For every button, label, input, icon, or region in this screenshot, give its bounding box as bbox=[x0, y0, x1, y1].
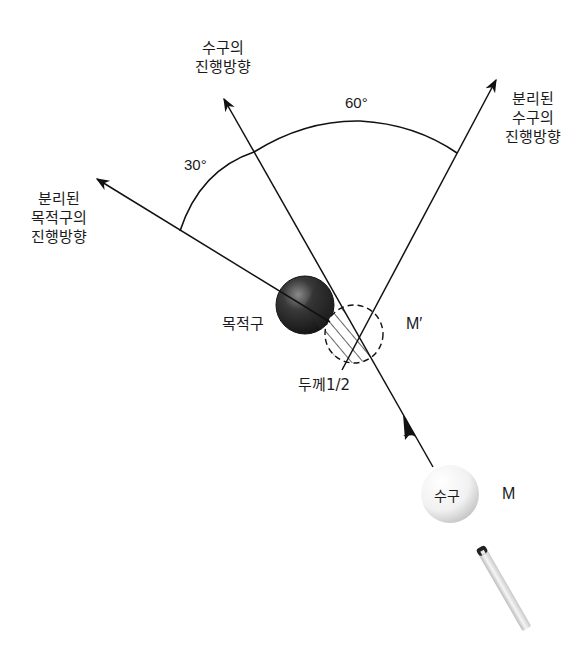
thickness-label: 두께1/2 bbox=[298, 376, 350, 395]
label-line: 진행방향 bbox=[178, 58, 268, 77]
separated-cue-direction-label: 분리된 수구의 진행방향 bbox=[498, 90, 568, 147]
label-line: 목적구의 bbox=[24, 209, 94, 228]
label-line: 분리된 bbox=[498, 90, 568, 109]
cue-stick bbox=[476, 545, 532, 631]
separated-target-direction-label: 분리된 목적구의 진행방향 bbox=[24, 190, 94, 247]
label-line: 수구의 bbox=[178, 39, 268, 58]
target-ball-label: 목적구 bbox=[222, 315, 264, 334]
angle-30-label: 30° bbox=[184, 156, 207, 173]
label-line: 분리된 bbox=[24, 190, 94, 209]
target-direction-line bbox=[97, 179, 330, 322]
label-line: 진행방향 bbox=[498, 128, 568, 147]
label-line: 수구의 bbox=[498, 109, 568, 128]
cue-ball-position-label: M bbox=[502, 485, 515, 503]
angle-60-label: 60° bbox=[345, 94, 368, 111]
cue-ball-label: 수구 bbox=[434, 485, 460, 505]
cue-path-line bbox=[224, 99, 433, 467]
angle-arc bbox=[180, 121, 457, 231]
cue-ball-direction-label: 수구의 진행방향 bbox=[178, 39, 268, 77]
label-line: 진행방향 bbox=[24, 228, 94, 247]
ghost-ball-label: M′ bbox=[406, 315, 422, 333]
